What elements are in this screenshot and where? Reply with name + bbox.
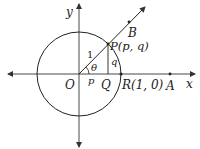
angle-arc-theta [86, 67, 89, 74]
opposite-side-label: q [111, 56, 117, 67]
y-axis-label: y [65, 5, 73, 19]
point-A-label: A [165, 79, 175, 93]
origin-label: O [65, 78, 75, 92]
point-R-dot [120, 73, 123, 76]
diagram-canvas: y x O B P(p, q) 1 θ q p Q R(1, 0) A [0, 0, 200, 149]
adjacent-side-label: p [88, 75, 95, 86]
point-R-label: R(1, 0) [121, 78, 164, 92]
point-B-dot [128, 21, 131, 24]
point-B-label: B [127, 26, 137, 40]
point-Q-label: Q [101, 78, 111, 92]
radius-label: 1 [87, 49, 93, 60]
point-P-label: P(p, q) [109, 39, 149, 53]
point-P-dot [107, 43, 110, 46]
unit-circle-diagram: y x O B P(p, q) 1 θ q p Q R(1, 0) A [0, 0, 200, 149]
angle-label: θ [91, 62, 97, 73]
point-A-dot [169, 73, 172, 76]
x-axis-label: x [186, 77, 193, 91]
